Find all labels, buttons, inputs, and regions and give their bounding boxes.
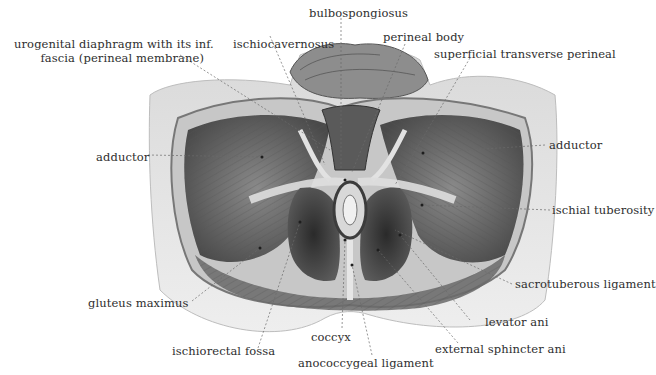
bulb-region	[290, 44, 428, 99]
label-levator-ani: levator ani	[485, 315, 549, 329]
label-ischiorectal-fossa: ischiorectal fossa	[172, 344, 275, 358]
label-ischiocavernosus: ischiocavernosus	[233, 37, 334, 51]
label-adductor-left: adductor	[96, 150, 149, 164]
label-external-sphincter-ani: external sphincter ani	[435, 342, 566, 356]
label-superficial-transverse-perineal: superficial transverse perineal	[434, 47, 616, 61]
label-urogenital-diaphragm-line2: fascia (perineal membrane)	[14, 51, 204, 65]
perineum-anatomy-figure: bulbospongiosus urogenital diaphragm wit…	[0, 0, 656, 375]
label-perineal-body: perineal body	[383, 30, 464, 44]
label-bulbospongiosus: bulbospongiosus	[309, 6, 408, 20]
label-urogenital-diaphragm-line1: urogenital diaphragm with its inf.	[14, 37, 204, 51]
label-ischial-tuberosity: ischial tuberosity	[552, 203, 654, 217]
label-gluteus-maximus: gluteus maximus	[88, 296, 188, 310]
label-adductor-right: adductor	[549, 138, 602, 152]
label-coccyx: coccyx	[311, 330, 351, 344]
label-sacrotuberous-ligament: sacrotuberous ligament	[515, 277, 656, 291]
label-anococcygeal-ligament: anococcygeal ligament	[298, 356, 434, 370]
